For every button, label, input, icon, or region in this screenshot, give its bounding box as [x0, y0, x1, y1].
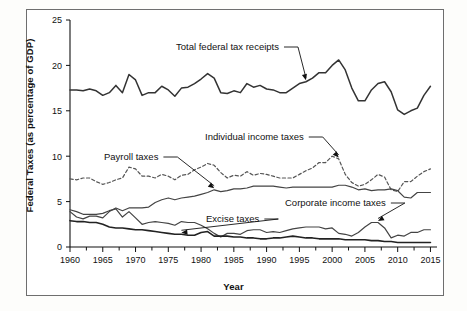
- x-tick-label: 2005: [355, 255, 375, 265]
- y-tick-label: 25: [52, 15, 62, 25]
- series-annotation-label: Individual income taxes: [205, 131, 304, 142]
- y-tick-label: 5: [57, 197, 62, 207]
- chart-figure: 0510152025 19601965197019751980198519901…: [0, 0, 467, 311]
- x-tick-label: 1960: [60, 255, 80, 265]
- y-tick-label: 10: [52, 152, 62, 162]
- annotation-group: Total federal tax receiptsIndividual inc…: [104, 41, 405, 235]
- x-tick-label: 1970: [126, 255, 146, 265]
- x-tick-label: 1965: [93, 255, 113, 265]
- x-axis-label: Year: [0, 281, 467, 292]
- x-tick-label: 1995: [289, 255, 309, 265]
- annotation-leader: [298, 47, 306, 78]
- y-axis-label: Federal Taxes (as percentage of GDP): [24, 11, 35, 241]
- y-tick-label: 0: [57, 242, 62, 252]
- x-tick-label: 1975: [158, 255, 178, 265]
- series-annotation-label: Total federal tax receipts: [176, 41, 279, 52]
- annotation-arrowhead: [302, 74, 307, 80]
- series-annotation-label: Corporate income taxes: [285, 197, 386, 208]
- y-tick-label: 20: [52, 61, 62, 71]
- series-line: [70, 60, 430, 114]
- x-tick-label: 1985: [224, 255, 244, 265]
- x-tick-label: 2000: [322, 255, 342, 265]
- series-annotation-label: Payroll taxes: [104, 151, 159, 162]
- line-chart-plot: 0510152025 19601965197019751980198519901…: [0, 0, 467, 311]
- x-tick-label: 1990: [257, 255, 277, 265]
- y-tick-label: 15: [52, 106, 62, 116]
- y-axis-ticks: 0510152025: [52, 15, 70, 252]
- x-tick-label: 2010: [388, 255, 408, 265]
- x-tick-label: 1980: [191, 255, 211, 265]
- x-tick-label: 2015: [420, 255, 440, 265]
- annotation-leader: [177, 157, 214, 186]
